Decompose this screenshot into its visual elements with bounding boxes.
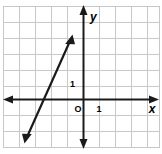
graph-canvas: 1 1 O y x — [0, 0, 162, 154]
y-axis-label: y — [89, 10, 98, 24]
figure-background — [0, 0, 162, 154]
x-tick-label-one: 1 — [96, 104, 101, 114]
y-tick-label-one: 1 — [70, 79, 75, 89]
origin-label: O — [74, 104, 81, 114]
x-axis-label: x — [148, 102, 157, 116]
coordinate-plane-figure: 1 1 O y x — [0, 0, 162, 154]
